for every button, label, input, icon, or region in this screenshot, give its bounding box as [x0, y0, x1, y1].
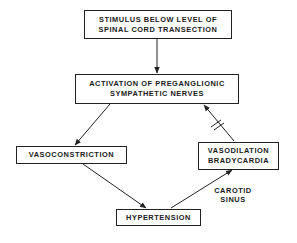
- node-text: SPINAL CORD TRANSECTION: [99, 25, 218, 35]
- node-activation: ACTIVATION OF PREGANGLIONIC SYMPATHETIC …: [75, 74, 239, 104]
- node-text: SYMPATHETIC NERVES: [110, 89, 204, 99]
- node-text: STIMULUS BELOW LEVEL OF: [99, 15, 217, 25]
- node-vasoconstriction: VASOCONSTRICTION: [16, 146, 127, 164]
- edge-label-carotid-sinus: CAROTID SINUS: [208, 186, 258, 204]
- node-text: VASODILATION: [208, 146, 269, 156]
- label-text: SINUS: [208, 195, 258, 204]
- label-text: CAROTID: [208, 186, 258, 195]
- node-text: VASOCONSTRICTION: [29, 150, 114, 160]
- node-stimulus: STIMULUS BELOW LEVEL OF SPINAL CORD TRAN…: [84, 10, 232, 39]
- node-text: BRADYCARDIA: [208, 156, 269, 166]
- flow-diagram: STIMULUS BELOW LEVEL OF SPINAL CORD TRAN…: [0, 0, 297, 243]
- node-text: ACTIVATION OF PREGANGLIONIC: [89, 79, 225, 89]
- node-text: HYPERTENSION: [126, 213, 191, 223]
- node-vasodilation: VASODILATION BRADYCARDIA: [198, 142, 279, 170]
- node-hypertension: HYPERTENSION: [116, 209, 201, 226]
